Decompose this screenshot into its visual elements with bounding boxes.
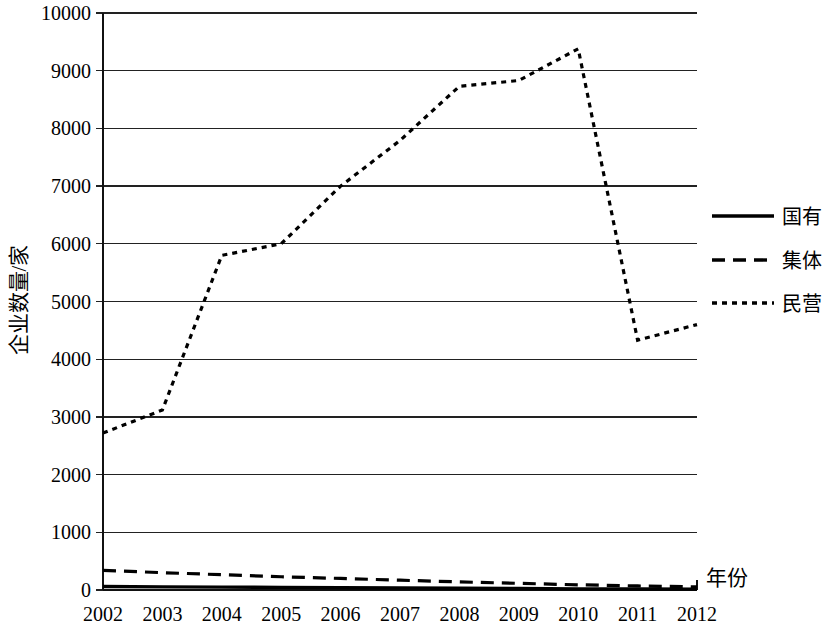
legend-label-2: 民营	[782, 293, 822, 315]
x-tick-label: 2011	[618, 603, 657, 625]
y-tick-label: 7000	[51, 175, 91, 197]
y-tick-label: 2000	[51, 464, 91, 486]
x-tick-label: 2009	[499, 603, 539, 625]
x-tick-label: 2004	[202, 603, 242, 625]
y-tick-label: 1000	[51, 521, 91, 543]
x-tick-label: 2006	[321, 603, 361, 625]
chart-container: 0100020003000400050006000700080009000100…	[0, 0, 833, 629]
y-tick-label: 3000	[51, 406, 91, 428]
x-tick-label: 2007	[380, 603, 420, 625]
x-tick-label: 2005	[261, 603, 301, 625]
line-chart: 0100020003000400050006000700080009000100…	[0, 0, 833, 629]
x-tick-label: 2010	[558, 603, 598, 625]
y-tick-label: 6000	[51, 233, 91, 255]
x-tick-label: 2012	[677, 603, 717, 625]
y-tick-label: 9000	[51, 60, 91, 82]
x-tick-label: 2008	[439, 603, 479, 625]
y-tick-label: 10000	[41, 2, 91, 24]
legend-label-0: 国有	[782, 206, 822, 228]
y-tick-label: 5000	[51, 291, 91, 313]
y-tick-label: 0	[81, 579, 91, 601]
y-tick-label: 8000	[51, 117, 91, 139]
legend-label-1: 集体	[782, 250, 822, 272]
x-axis-tick-labels: 2002200320042005200620072008200920102011…	[83, 603, 717, 625]
y-axis-title: 企业数量/家	[7, 245, 31, 356]
x-axis-title: 年份	[706, 566, 748, 590]
y-tick-label: 4000	[51, 348, 91, 370]
x-tick-label: 2002	[83, 603, 123, 625]
chart-background	[0, 0, 833, 629]
x-tick-label: 2003	[142, 603, 182, 625]
